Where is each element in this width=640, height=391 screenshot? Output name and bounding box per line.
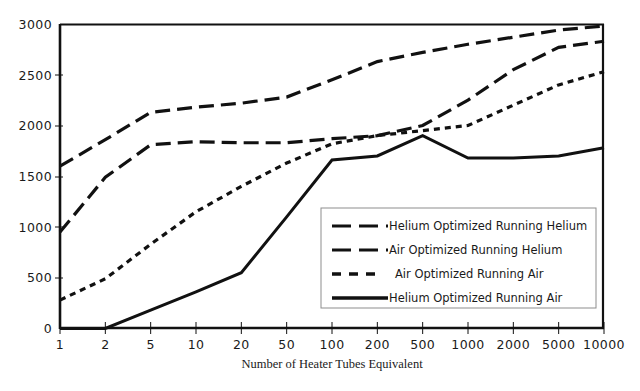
x-tick-label-2: 2 — [101, 337, 109, 352]
x-tick-label-1: 1 — [56, 337, 64, 352]
x-tick-label-1000: 1000 — [451, 337, 484, 352]
chart-legend: Helium Optimized Running Helium Air Opti… — [321, 208, 596, 308]
y-tick-label-3000: 3000 — [19, 17, 52, 32]
x-axis-title: Number of Heater Tubes Equivalent — [241, 357, 423, 371]
legend-label-1: Air Optimized Running Helium — [389, 243, 562, 257]
legend-label-3: Helium Optimized Running Air — [389, 291, 563, 305]
x-tick-label-500: 500 — [410, 337, 435, 352]
y-tick-label-1500: 1500 — [19, 169, 52, 184]
y-tick-label-1000: 1000 — [19, 220, 52, 235]
chart-figure: 0 500 1000 1500 2000 2500 3000 125102050… — [0, 0, 640, 391]
y-tick-label-0: 0 — [44, 321, 52, 336]
x-tick-label-100: 100 — [319, 337, 344, 352]
x-tick-label-50: 50 — [278, 337, 295, 352]
x-tick-label-2000: 2000 — [497, 337, 530, 352]
x-tick-label-5: 5 — [146, 337, 154, 352]
chart-background — [0, 0, 640, 391]
y-tick-label-500: 500 — [27, 270, 52, 285]
legend-label-0: Helium Optimized Running Helium — [389, 219, 587, 233]
legend-label-2: Air Optimized Running Air — [395, 267, 544, 281]
x-tick-label-10000: 10000 — [583, 337, 625, 352]
x-tick-label-20: 20 — [233, 337, 250, 352]
x-tick-label-5000: 5000 — [542, 337, 575, 352]
x-tick-label-200: 200 — [365, 337, 390, 352]
y-tick-label-2500: 2500 — [19, 68, 52, 83]
x-tick-label-10: 10 — [188, 337, 205, 352]
y-tick-label-2000: 2000 — [19, 118, 52, 133]
